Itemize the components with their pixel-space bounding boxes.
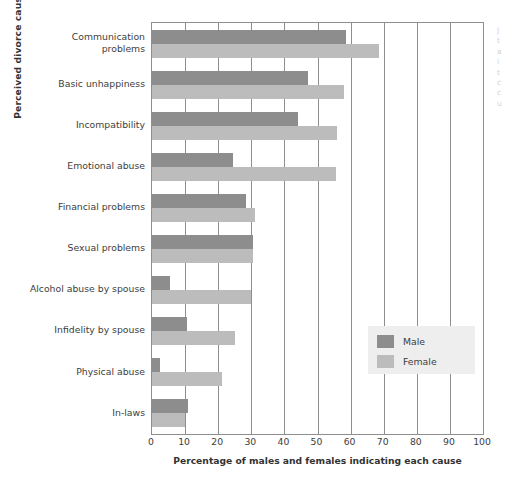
legend-item-male: Male bbox=[377, 333, 425, 349]
bar-female bbox=[152, 44, 379, 58]
bar-female bbox=[152, 126, 337, 140]
bar-male bbox=[152, 112, 298, 126]
bar-female bbox=[152, 85, 344, 99]
y-axis-tick-label: Sexual problems bbox=[24, 242, 145, 254]
x-axis-tick-labels: 0102030405060708090100 bbox=[151, 436, 484, 450]
legend-label-female: Female bbox=[403, 356, 437, 367]
y-axis-tick-label: Infidelity by spouse bbox=[24, 324, 145, 336]
y-axis-tick-labels: Communication problemsBasic unhappinessI… bbox=[24, 22, 145, 433]
y-axis-tick-label: In-laws bbox=[24, 407, 145, 419]
legend-label-male: Male bbox=[403, 336, 425, 347]
y-axis-tick-label: Financial problems bbox=[24, 201, 145, 213]
legend-item-female: Female bbox=[377, 353, 437, 369]
bar-female bbox=[152, 249, 253, 263]
bar-male bbox=[152, 194, 246, 208]
y-axis-tick-label: Communication problems bbox=[24, 31, 145, 54]
bar-female bbox=[152, 372, 222, 386]
bar-female bbox=[152, 208, 255, 222]
chart-figure: Perceived divorce causes Communication p… bbox=[0, 0, 513, 495]
legend-swatch-male-icon bbox=[377, 335, 394, 348]
gridline bbox=[483, 23, 484, 434]
bar-male bbox=[152, 358, 160, 372]
gridline bbox=[351, 23, 352, 434]
bar-female bbox=[152, 290, 251, 304]
bar-male bbox=[152, 30, 346, 44]
x-axis-tick-label: 100 bbox=[462, 436, 502, 447]
bar-male bbox=[152, 235, 253, 249]
y-axis-tick-label: Incompatibility bbox=[24, 119, 145, 131]
legend-swatch-female-icon bbox=[377, 355, 394, 368]
bar-male bbox=[152, 153, 233, 167]
y-axis-tick-label: Basic unhappiness bbox=[24, 78, 145, 90]
bar-female bbox=[152, 413, 185, 427]
bar-female bbox=[152, 167, 336, 181]
y-axis-tick-label: Alcohol abuse by spouse bbox=[24, 283, 145, 295]
page-margin-note: J t a i t c c u bbox=[497, 26, 513, 109]
x-axis-title: Percentage of males and females indicati… bbox=[151, 455, 484, 466]
bar-male bbox=[152, 71, 308, 85]
chart-legend: Male Female bbox=[368, 326, 475, 374]
bar-male bbox=[152, 276, 170, 290]
bar-male bbox=[152, 317, 187, 331]
y-axis-tick-label: Physical abuse bbox=[24, 366, 145, 378]
y-axis-tick-label: Emotional abuse bbox=[24, 160, 145, 172]
bar-female bbox=[152, 331, 235, 345]
bar-male bbox=[152, 399, 188, 413]
